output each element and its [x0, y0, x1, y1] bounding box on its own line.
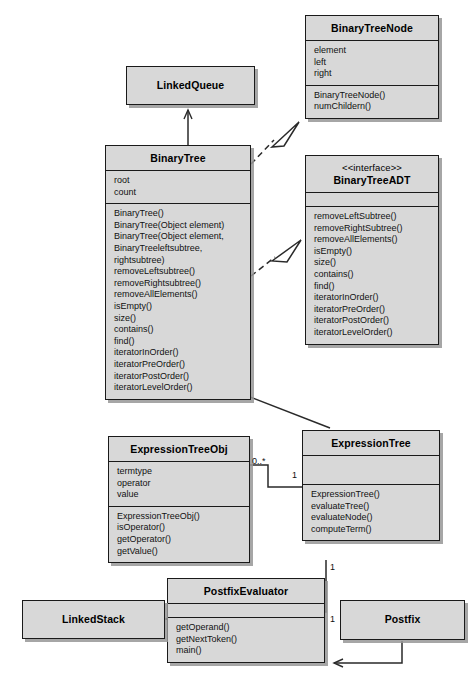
class-expression-tree-attributes [303, 455, 439, 484]
multiplicity-evaluator-right: 1 [330, 614, 335, 624]
class-binary-tree-adt-title: <<interface>> BinaryTreeADT [306, 156, 438, 192]
edge-expressiontree-postfixevaluator [325, 560, 326, 612]
class-binary-tree-adt-attributes [306, 192, 438, 206]
method: ExpressionTreeObj() [117, 511, 243, 523]
class-binary-tree-node-attributes: element left right [306, 40, 438, 85]
attribute: right [314, 68, 432, 80]
hollow-triangle-binarytreeadt [272, 240, 301, 262]
method: size() [314, 257, 432, 269]
class-binary-tree-adt-name: BinaryTreeADT [333, 174, 410, 186]
method: find() [314, 281, 432, 293]
stereotype-label: <<interface>> [308, 162, 436, 174]
class-expression-tree-obj[interactable]: ExpressionTreeObj termtype operator valu… [108, 436, 250, 563]
hollow-triangle-binarytreenode [272, 122, 299, 147]
method: BinaryTree() [114, 208, 244, 220]
method: evaluateTree() [311, 501, 433, 513]
class-binary-tree-title: BinaryTree [106, 146, 250, 170]
method: find() [114, 336, 244, 348]
method: computeTerm() [311, 524, 433, 536]
method: size() [114, 313, 244, 325]
method: getOperand() [176, 622, 318, 634]
class-binary-tree-node-title: BinaryTreeNode [306, 16, 438, 40]
method: ExpressionTree() [311, 489, 433, 501]
class-binary-tree-node-methods: BinaryTreeNode() numChildern() [306, 85, 438, 118]
method: BinaryTree(Object element, [114, 231, 244, 243]
method: removeAllElements() [314, 234, 432, 246]
class-postfix-evaluator-methods: getOperand() getNextToken() main() [168, 617, 324, 662]
method: removeRightSubtree() [314, 223, 432, 235]
edge-binarytree-binarytreenode [251, 140, 274, 164]
multiplicity-expr-obj-target: 1 [292, 470, 297, 480]
method: removeRightsubtree() [114, 278, 244, 290]
method: evaluateNode() [311, 512, 433, 524]
attribute: operator [117, 478, 243, 490]
class-postfix-title: Postfix [341, 601, 464, 637]
multiplicity-expr-obj-source: 0..* [252, 456, 266, 466]
multiplicity-expr-tree-bottom: 1 [330, 562, 335, 572]
method: iteratorLevelOrder() [114, 382, 244, 394]
attribute: element [314, 45, 432, 57]
method: iteratorLevelOrder() [314, 327, 432, 339]
uml-class-diagram: BinaryTreeNode element left right Binary… [0, 0, 476, 696]
class-linked-stack[interactable]: LinkedStack [22, 600, 165, 639]
method: contains() [114, 324, 244, 336]
class-expression-tree-obj-title: ExpressionTreeObj [109, 437, 249, 461]
attribute: count [114, 187, 244, 199]
edge-postfix-postfixevaluator [334, 641, 402, 663]
method: contains() [314, 269, 432, 281]
class-binary-tree-adt[interactable]: <<interface>> BinaryTreeADT removeLeftSu… [305, 155, 439, 345]
attribute: root [114, 175, 244, 187]
class-postfix-evaluator-attributes [168, 603, 324, 617]
method: BinaryTree(Object element) [114, 220, 244, 232]
class-postfix-evaluator-title: PostfixEvaluator [168, 579, 324, 603]
class-expression-tree-methods: ExpressionTree() evaluateTree() evaluate… [303, 484, 439, 540]
method: getValue() [117, 546, 243, 558]
class-linked-stack-title: LinkedStack [23, 601, 164, 637]
class-expression-tree-obj-attributes: termtype operator value [109, 461, 249, 506]
class-expression-tree[interactable]: ExpressionTree ExpressionTree() evaluate… [302, 430, 440, 541]
method: isOperator() [117, 522, 243, 534]
class-binary-tree[interactable]: BinaryTree root count BinaryTree() Binar… [105, 145, 251, 400]
method: iteratorPreOrder() [114, 359, 244, 371]
method: main() [176, 645, 318, 657]
method: iteratorInOrder() [314, 292, 432, 304]
class-expression-tree-title: ExpressionTree [303, 431, 439, 455]
class-binary-tree-node[interactable]: BinaryTreeNode element left right Binary… [305, 15, 439, 119]
method: removeLeftsubtree() [114, 266, 244, 278]
class-linked-queue-title: LinkedQueue [127, 67, 254, 103]
method: numChildern() [314, 101, 432, 113]
attribute: value [117, 489, 243, 501]
method: getOperator() [117, 534, 243, 546]
method: removeAllElements() [114, 289, 244, 301]
method: iteratorInOrder() [114, 347, 244, 359]
edge-binarytree-binarytreeadt [251, 257, 275, 276]
method: isEmpty() [114, 301, 244, 313]
method: removeLeftSubtree() [314, 211, 432, 223]
method: iteratorPreOrder() [314, 304, 432, 316]
method: getNextToken() [176, 634, 318, 646]
class-binary-tree-attributes: root count [106, 170, 250, 203]
class-binary-tree-adt-methods: removeLeftSubtree() removeRightSubtree()… [306, 206, 438, 344]
class-postfix-evaluator[interactable]: PostfixEvaluator getOperand() getNextTok… [167, 578, 325, 663]
class-binary-tree-methods: BinaryTree() BinaryTree(Object element) … [106, 203, 250, 399]
attribute: left [314, 57, 432, 69]
method: BinaryTreeNode() [314, 90, 432, 102]
class-linked-queue[interactable]: LinkedQueue [126, 66, 255, 105]
attribute: termtype [117, 466, 243, 478]
method: isEmpty() [314, 246, 432, 258]
method: iteratorPostOrder() [114, 371, 244, 383]
class-postfix[interactable]: Postfix [340, 600, 465, 640]
class-expression-tree-obj-methods: ExpressionTreeObj() isOperator() getOper… [109, 506, 249, 562]
method: iteratorPostOrder() [314, 315, 432, 327]
method: rightsubtree) [114, 255, 244, 267]
method: BinaryTreeleftsubtree, [114, 243, 244, 255]
